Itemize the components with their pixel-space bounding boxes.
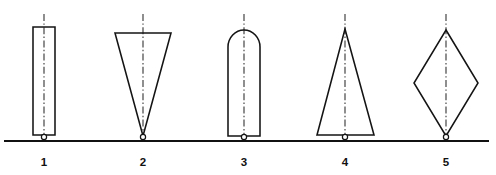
shape-number-label-3: 3 [241,156,247,168]
shape-outline-group [33,27,478,136]
pivot-point-1 [41,134,46,139]
shape-number-label-1: 1 [41,156,48,168]
shape-number-label-5: 5 [443,156,450,168]
pivot-point-3 [241,134,246,139]
pivot-point-5 [443,134,448,139]
pivot-point-2 [140,134,145,139]
shape-number-label-2: 2 [140,156,146,168]
shape-number-label-4: 4 [342,156,349,168]
pivot-point-4 [342,134,347,139]
figure-container: 1 2 3 4 5 [0,0,496,175]
shape-stability-diagram: 1 2 3 4 5 [0,0,496,175]
pivot-group [41,134,448,139]
shape-number-label-group: 1 2 3 4 5 [41,156,450,168]
centerline-group [44,14,446,141]
